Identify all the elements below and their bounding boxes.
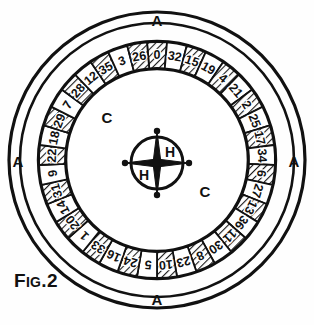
- pocket-label-18: 18: [46, 130, 63, 147]
- label-A-top: A: [152, 12, 163, 29]
- pocket-label-5: 5: [144, 257, 152, 272]
- figure-caption: FIG.2: [14, 270, 58, 292]
- pocket-label-26: 26: [131, 48, 147, 64]
- pocket-label-0: 0: [154, 48, 161, 62]
- label-C-upper-left: C: [102, 109, 113, 126]
- caption-prefix: F: [14, 270, 26, 291]
- pocket-label-17: 17: [251, 130, 268, 147]
- label-A-left: A: [13, 153, 24, 170]
- caption-small-caps: IG: [26, 274, 41, 290]
- label-H-upper: H: [165, 144, 175, 160]
- label-A-right: A: [289, 153, 300, 170]
- label-A-bottom: A: [152, 291, 163, 308]
- figure-roulette-wheel: 0321519421225173462713361130823105241633…: [0, 0, 314, 325]
- caption-suffix: .2: [41, 270, 57, 291]
- pocket-label-10: 10: [158, 257, 173, 272]
- pocket-label-22: 22: [45, 148, 60, 163]
- label-C-lower-right: C: [200, 183, 211, 200]
- label-H-lower: H: [139, 167, 149, 183]
- pocket-label-34: 34: [255, 148, 270, 163]
- pocket-label-32: 32: [167, 48, 183, 64]
